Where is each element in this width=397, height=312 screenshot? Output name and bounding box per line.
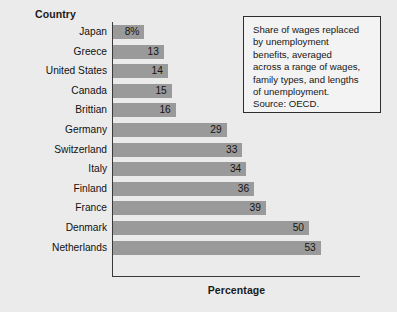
bar-value-label: 16: [113, 103, 171, 117]
bar-category-label: United States: [0, 63, 107, 78]
country-column-header: Country: [0, 8, 111, 20]
bar-category-label: Netherlands: [0, 240, 107, 255]
bar-category-label: Brittian: [0, 102, 107, 117]
bar-row: Finland36: [0, 182, 397, 196]
bar-category-label: Finland: [0, 181, 107, 196]
bar-category-label: Germany: [0, 122, 107, 137]
bar-category-label: Italy: [0, 161, 107, 176]
bar-category-label: Switzerland: [0, 142, 107, 157]
bar-chart: Country Japan8%Greece13United States14Ca…: [0, 0, 397, 312]
bar-value-label: 36: [113, 182, 249, 196]
bar-row: Germany29: [0, 123, 397, 137]
note-box: Share of wages replaced by unemployment …: [243, 16, 381, 113]
note-source: Source: OECD.: [253, 98, 372, 110]
note-body: Share of wages replaced by unemployment …: [253, 24, 372, 98]
bar-row: Switzerland33: [0, 143, 397, 157]
x-axis-title: Percentage: [113, 284, 360, 296]
bar-category-label: Canada: [0, 83, 107, 98]
bar-category-label: Denmark: [0, 220, 107, 235]
bar-value-label: 13: [113, 45, 159, 59]
bar-value-label: 34: [113, 162, 241, 176]
bar-value-label: 14: [113, 64, 163, 78]
bar-category-label: France: [0, 200, 107, 215]
bar-value-label: 33: [113, 143, 237, 157]
bar-category-label: Greece: [0, 44, 107, 59]
bar-row: Denmark50: [0, 221, 397, 235]
bar-value-label: 8%: [113, 25, 139, 39]
bar-value-label: 50: [113, 221, 304, 235]
bar-row: Netherlands53: [0, 241, 397, 255]
bar-value-label: 29: [113, 123, 222, 137]
bar-value-label: 15: [113, 84, 167, 98]
bar-row: Italy34: [0, 162, 397, 176]
bar-value-label: 53: [113, 241, 316, 255]
bar-category-label: Japan: [0, 24, 107, 39]
bar-row: France39: [0, 201, 397, 215]
bar-value-label: 39: [113, 201, 261, 215]
